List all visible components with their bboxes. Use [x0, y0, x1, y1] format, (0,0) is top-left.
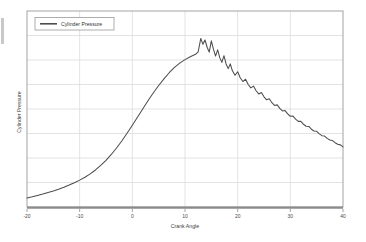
x-tick-label: 10: [182, 213, 188, 219]
x-tick-label: -10: [76, 213, 83, 219]
chart-canvas: -20-10010203040 Crank Angle Cylinder Pre…: [0, 0, 366, 242]
legend[interactable]: Cylinder Pressure: [35, 18, 114, 31]
x-tick-label: 40: [340, 213, 346, 219]
x-axis-tick-labels: -20-10010203040: [23, 213, 346, 219]
x-axis-tick-marks: [27, 209, 343, 212]
x-axis-title: Crank Angle: [171, 223, 199, 229]
cylinder-pressure-line-chart: -20-10010203040 Crank Angle Cylinder Pre…: [0, 0, 366, 242]
x-tick-label: 0: [131, 213, 134, 219]
legend-label-cylinder-pressure: Cylinder Pressure: [61, 21, 102, 27]
x-tick-label: -20: [23, 213, 30, 219]
x-tick-label: 30: [288, 213, 294, 219]
x-tick-label: 20: [235, 213, 241, 219]
y-axis-title: Cylinder Pressure: [16, 91, 22, 132]
chart-screenshot: -20-10010203040 Crank Angle Cylinder Pre…: [0, 0, 366, 242]
